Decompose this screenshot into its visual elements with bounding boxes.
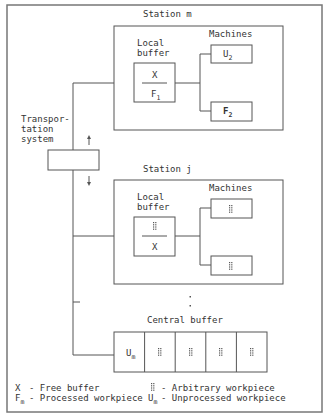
station-m-buffer-label-2: buffer [137, 48, 170, 58]
station-j-title: Station j [143, 164, 192, 174]
legend-free-desc: - Free buffer [29, 383, 100, 393]
transport-label-3: system [21, 134, 54, 144]
station-j-machines-label: Machines [209, 183, 252, 193]
legend-free-symbol: X [15, 383, 21, 393]
station-m-machines-label: Machines [209, 29, 252, 39]
central-buffer-title: Central buffer [147, 315, 223, 325]
legend-processed-desc: - Processed workpiece [29, 393, 143, 403]
station-j-machine-1 [211, 199, 252, 218]
transport-vehicle-box [48, 150, 99, 170]
station-j: Station j Local buffer X Machines [114, 164, 283, 284]
legend-arbitrary-desc: - Arbitrary workpiece [161, 383, 275, 393]
station-j-buffer-slot-2: X [152, 242, 158, 252]
station-j-buffer-label-1: Local [137, 192, 164, 202]
station-m: Station m Local buffer X F1 Machines U2 … [114, 9, 283, 130]
legend-unprocessed-desc: - Unprocessed workpiece [161, 393, 286, 403]
station-m-title: Station m [143, 9, 192, 19]
station-j-machine-2 [211, 256, 252, 275]
station-m-buffer-label-1: Local [137, 38, 164, 48]
transport-label-2: tation [21, 124, 54, 134]
central-buffer-box [114, 332, 267, 372]
transport-label-1: Transpor- [21, 114, 70, 124]
station-m-buffer-slot-1: X [152, 70, 158, 80]
production-system-diagram: Transpor- tation system Station m Local … [0, 0, 330, 420]
station-j-buffer-label-2: buffer [137, 202, 170, 212]
